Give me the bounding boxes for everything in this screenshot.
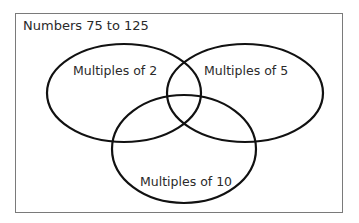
set-ellipse-multiples-of-5 — [167, 44, 323, 142]
set-label-multiples-of-10: Multiples of 10 — [140, 174, 232, 189]
venn-diagram — [0, 0, 359, 223]
set-label-multiples-of-5: Multiples of 5 — [204, 63, 288, 78]
diagram-title: Numbers 75 to 125 — [23, 18, 149, 33]
set-label-multiples-of-2: Multiples of 2 — [73, 63, 157, 78]
set-ellipse-multiples-of-2 — [47, 44, 201, 142]
